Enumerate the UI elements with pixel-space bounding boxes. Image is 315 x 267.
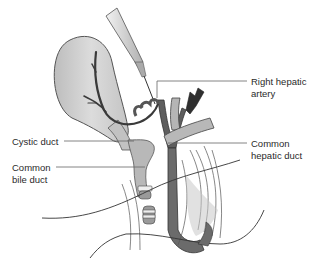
label-common-hepatic-duct: Common hepatic duct (251, 138, 302, 161)
common-bile-duct-structure (128, 140, 155, 224)
gallbladder (54, 36, 134, 150)
label-cystic-duct: Cystic duct (12, 136, 58, 148)
duodenum-shading (186, 175, 218, 236)
label-right-hepatic-artery: Right hepatic artery (251, 76, 306, 99)
label-common-bile-duct: Common bile duct (12, 162, 51, 185)
cholecystectomy-illustration (0, 0, 315, 267)
surrounding-tissue (42, 146, 264, 258)
